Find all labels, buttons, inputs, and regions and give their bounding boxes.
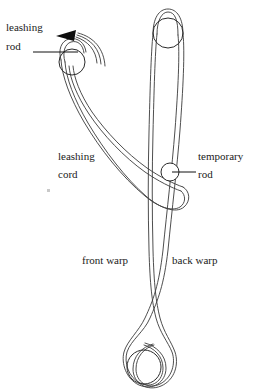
back-warp-label: back warp <box>172 254 218 266</box>
weaving-diagram: leashing rod leashing cord temporary rod… <box>0 0 254 391</box>
scan-artifact <box>47 189 50 192</box>
leashing-cord-label-line2: cord <box>58 168 78 180</box>
temporary-rod-label-line2: rod <box>198 168 213 180</box>
leashing-cord-label-line1: leashing <box>58 150 95 162</box>
leashing-rod-label-line1: leashing <box>6 21 43 33</box>
arrow-left-icon <box>56 30 105 66</box>
warp-bottom-rod-marker <box>127 350 161 384</box>
leashing-rod-marker <box>59 39 86 75</box>
leashing-rod-label-line2: rod <box>6 40 21 52</box>
temporary-rod-label-line1: temporary <box>198 150 244 162</box>
front-warp-label: front warp <box>82 254 129 266</box>
diagram-canvas: leashing rod leashing cord temporary rod… <box>0 0 254 391</box>
front-warp-thread <box>133 34 176 388</box>
